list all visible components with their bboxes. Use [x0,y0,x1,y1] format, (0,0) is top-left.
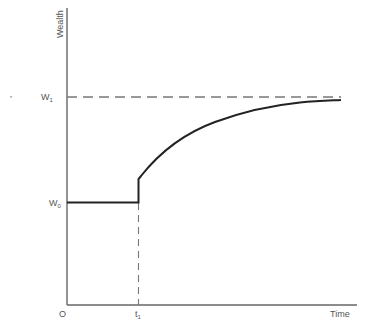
y-axis-label: Wealth [55,10,65,38]
origin-label: O [59,309,66,319]
x-axis-label: Time [330,309,350,319]
stray-mark: ’ [10,94,12,104]
w1-label: W1 [41,92,54,103]
w0-label: W0 [49,198,62,209]
t1-label: t1 [135,309,142,320]
wealth-curve [67,100,341,203]
wealth-diagram: Wealth W1 W0 O t1 Time ’ [0,0,367,324]
